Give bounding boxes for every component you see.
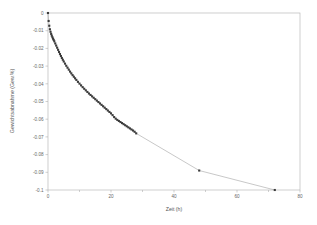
data-point-marker <box>49 28 51 30</box>
data-point-marker <box>274 189 276 191</box>
y-tick-label: -0.05 <box>33 99 44 104</box>
y-tick-label: -0.1 <box>36 188 44 193</box>
data-point-marker <box>59 53 61 55</box>
x-tick-label: 20 <box>108 194 114 199</box>
y-tick-label: -0.07 <box>33 135 44 140</box>
data-point-marker <box>66 67 68 69</box>
data-point-marker <box>56 47 58 49</box>
data-point-marker <box>65 65 67 67</box>
data-point-marker <box>48 20 50 22</box>
y-tick-label: -0.01 <box>33 28 44 33</box>
y-axis-title: Gewichtsabnahme (Gew.%) <box>9 69 15 134</box>
data-point-marker <box>68 69 70 71</box>
x-tick-label: 40 <box>171 194 177 199</box>
x-tick-label: 0 <box>47 194 50 199</box>
y-axis-ticks: 0-0.01-0.02-0.03-0.04-0.05-0.06-0.07-0.0… <box>33 11 48 193</box>
x-tick-label: 60 <box>234 194 240 199</box>
chart-figure: 0-0.01-0.02-0.03-0.04-0.05-0.06-0.07-0.0… <box>0 0 317 225</box>
data-point-marker <box>54 42 56 44</box>
y-tick-label: -0.03 <box>33 64 44 69</box>
data-series <box>47 12 276 191</box>
x-tick-label: 80 <box>297 194 303 199</box>
scatter-chart: 0-0.01-0.02-0.03-0.04-0.05-0.06-0.07-0.0… <box>0 0 317 225</box>
data-point-marker <box>112 114 114 116</box>
data-point-marker <box>58 51 60 53</box>
y-tick-label: -0.08 <box>33 152 44 157</box>
y-tick-label: -0.02 <box>33 46 44 51</box>
data-point-marker <box>53 40 55 42</box>
data-point-marker <box>48 25 50 27</box>
data-point-marker <box>57 49 59 51</box>
data-point-marker <box>55 45 57 47</box>
plot-frame <box>48 13 300 190</box>
y-tick-label: -0.09 <box>33 170 44 175</box>
data-point-marker <box>135 132 137 134</box>
data-point-marker <box>64 63 66 65</box>
y-tick-label: 0 <box>41 11 44 16</box>
y-tick-label: -0.06 <box>33 117 44 122</box>
series-line <box>48 13 275 190</box>
data-point-marker <box>198 169 200 171</box>
y-tick-label: -0.04 <box>33 82 44 87</box>
data-point-marker <box>47 12 49 14</box>
x-axis-title: Zeit (h) <box>166 206 183 212</box>
data-point-marker <box>60 55 62 57</box>
data-point-marker <box>49 31 51 33</box>
data-point-marker <box>63 60 65 62</box>
data-point-marker <box>75 79 77 81</box>
x-axis-ticks: 020406080 <box>47 190 303 199</box>
